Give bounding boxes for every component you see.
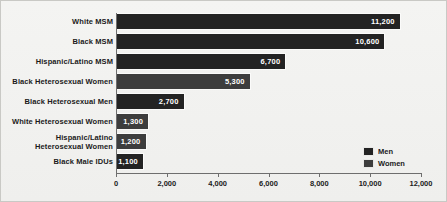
bar-row: 2,700 bbox=[116, 93, 185, 110]
category-label: Black Male IDUs bbox=[1, 157, 113, 166]
bar-men[interactable]: 11,200 bbox=[116, 13, 401, 30]
bar-row: 5,300 bbox=[116, 73, 251, 90]
bar-value-label: 6,700 bbox=[261, 57, 286, 66]
category-label-wrap: Black Heterosexual Men bbox=[1, 93, 113, 110]
axis-tick-label: 2,000 bbox=[157, 179, 176, 188]
category-label-line1: Black MSM bbox=[1, 37, 113, 46]
bar-men[interactable]: 1,100 bbox=[116, 153, 144, 170]
bar-men[interactable]: 10,600 bbox=[116, 33, 385, 50]
axis-tick bbox=[370, 173, 371, 177]
legend-item-men[interactable]: Men bbox=[363, 147, 405, 156]
category-label-line1: Black Male IDUs bbox=[1, 157, 113, 166]
bar-value-label: 1,100 bbox=[118, 157, 143, 166]
bar-row: 6,700 bbox=[116, 53, 286, 70]
axis-tick bbox=[167, 173, 168, 177]
bar-women[interactable]: 5,300 bbox=[116, 73, 251, 90]
legend-label: Men bbox=[378, 147, 393, 156]
bar-value-label: 10,600 bbox=[355, 37, 384, 46]
axis-tick-label: 8,000 bbox=[310, 179, 329, 188]
axis-tick-label: 4,000 bbox=[208, 179, 227, 188]
category-label-line1: Hispanic/Latino MSM bbox=[1, 57, 113, 66]
bar-value-label: 11,200 bbox=[371, 17, 400, 26]
bar-men[interactable]: 6,700 bbox=[116, 53, 286, 70]
category-label: Hispanic/LatinoHeterosexual Women bbox=[1, 133, 113, 151]
axis-tick bbox=[319, 173, 320, 177]
legend-swatch-men bbox=[363, 147, 374, 156]
axis-tick bbox=[269, 173, 270, 177]
category-label-wrap: Hispanic/Latino MSM bbox=[1, 53, 113, 70]
category-label-wrap: Black Male IDUs bbox=[1, 153, 113, 170]
legend-label: Women bbox=[378, 159, 405, 168]
category-label-wrap: White MSM bbox=[1, 13, 113, 30]
axis-tick-label: 12,000 bbox=[410, 179, 433, 188]
category-label-wrap: Black Heterosexual Women bbox=[1, 73, 113, 90]
legend-swatch-women bbox=[363, 159, 374, 168]
category-label-wrap: Black MSM bbox=[1, 33, 113, 50]
axis-tick bbox=[116, 173, 117, 177]
bar-value-label: 1,300 bbox=[123, 117, 148, 126]
axis-tick-label: 10,000 bbox=[359, 179, 382, 188]
category-label: Black Heterosexual Men bbox=[1, 97, 113, 106]
category-label-wrap: White Heterosexual Women bbox=[1, 113, 113, 130]
category-label-line1: White Heterosexual Women bbox=[1, 117, 113, 126]
axis-tick-label: 0 bbox=[114, 179, 118, 188]
bar-men[interactable]: 2,700 bbox=[116, 93, 185, 110]
bar-row: 10,600 bbox=[116, 33, 385, 50]
category-axis-labels: White MSMBlack MSMHispanic/Latino MSMBla… bbox=[1, 13, 113, 173]
category-label: White Heterosexual Women bbox=[1, 117, 113, 126]
category-label: White MSM bbox=[1, 17, 113, 26]
bar-women[interactable]: 1,300 bbox=[116, 113, 149, 130]
legend-item-women[interactable]: Women bbox=[363, 159, 405, 168]
category-label-line1: White MSM bbox=[1, 17, 113, 26]
chart-legend: MenWomen bbox=[363, 147, 405, 171]
axis-tick bbox=[421, 173, 422, 177]
bar-value-label: 5,300 bbox=[225, 77, 250, 86]
category-label-line2: Heterosexual Women bbox=[1, 142, 113, 151]
category-label-line1: Black Heterosexual Women bbox=[1, 77, 113, 86]
category-label-wrap: Hispanic/LatinoHeterosexual Women bbox=[1, 133, 113, 150]
bar-row: 11,200 bbox=[116, 13, 401, 30]
category-label-line1: Hispanic/Latino bbox=[1, 133, 113, 142]
bar-value-label: 1,200 bbox=[121, 137, 146, 146]
bar-row: 1,100 bbox=[116, 153, 144, 170]
bar-row: 1,200 bbox=[116, 133, 147, 150]
category-label: Hispanic/Latino MSM bbox=[1, 57, 113, 66]
bar-women[interactable]: 1,200 bbox=[116, 133, 147, 150]
category-label-line1: Black Heterosexual Men bbox=[1, 97, 113, 106]
category-label: Black Heterosexual Women bbox=[1, 77, 113, 86]
bar-value-label: 2,700 bbox=[159, 97, 184, 106]
category-label: Black MSM bbox=[1, 37, 113, 46]
bar-row: 1,300 bbox=[116, 113, 149, 130]
value-axis-vertical-line bbox=[116, 13, 117, 174]
chart-frame: White MSMBlack MSMHispanic/Latino MSMBla… bbox=[0, 0, 447, 202]
axis-tick-label: 6,000 bbox=[259, 179, 278, 188]
axis-tick bbox=[218, 173, 219, 177]
